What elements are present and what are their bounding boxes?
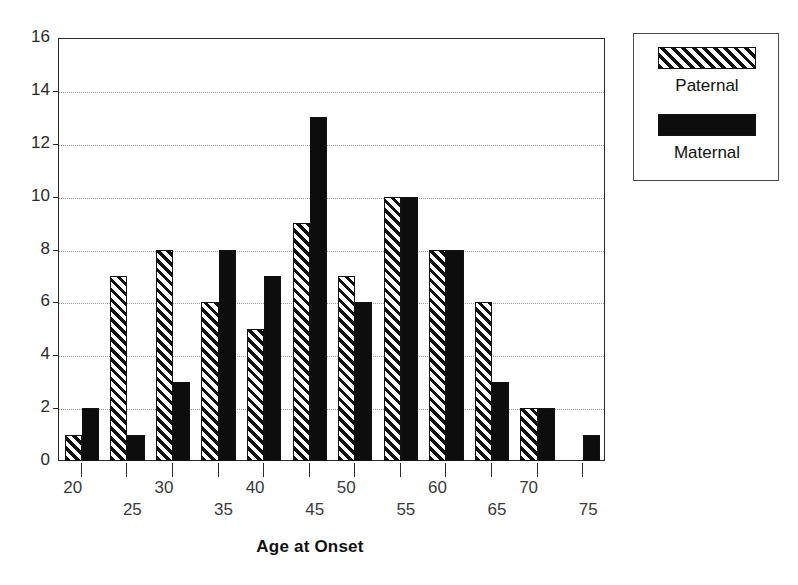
- y-axis-tick-label: 0: [14, 450, 50, 470]
- bar-maternal-65: [492, 382, 509, 461]
- x-axis-tick-label: 35: [204, 500, 244, 520]
- y-axis-tick-label: 10: [14, 186, 50, 206]
- y-axis-tick-label: 2: [14, 397, 50, 417]
- legend-swatch-maternal: [658, 114, 756, 136]
- bar-paternal-35: [201, 302, 218, 461]
- y-axis-tick-label: 8: [14, 239, 50, 259]
- bar-paternal-45: [293, 223, 310, 461]
- bar-maternal-60: [446, 250, 463, 462]
- x-axis-tick-mark: [491, 463, 492, 477]
- y-axis-tick-label: 12: [14, 133, 50, 153]
- x-axis-tick-mark: [126, 463, 127, 477]
- x-axis-tick-label: 20: [53, 478, 93, 498]
- y-axis-tick-label: 6: [14, 291, 50, 311]
- bar-paternal-30: [156, 250, 173, 462]
- x-axis-tick-label: 40: [235, 478, 275, 498]
- bar-paternal-25: [110, 276, 127, 461]
- bar-maternal-35: [219, 250, 236, 462]
- x-axis-tick-mark: [218, 463, 219, 477]
- bar-paternal-70: [520, 408, 537, 461]
- bars-group: [58, 38, 605, 461]
- bar-maternal-50: [355, 302, 372, 461]
- x-axis-tick-mark: [172, 463, 173, 477]
- bar-maternal-30: [173, 382, 190, 461]
- x-axis-tick-label: 50: [326, 478, 366, 498]
- legend-swatch-paternal: [658, 47, 756, 69]
- bar-maternal-55: [401, 197, 418, 461]
- bar-maternal-20: [82, 408, 99, 461]
- bar-paternal-40: [247, 329, 264, 461]
- bar-maternal-70: [538, 408, 555, 461]
- bar-maternal-75: [583, 435, 600, 461]
- x-axis-tick-mark: [81, 463, 82, 477]
- bar-maternal-25: [127, 435, 144, 461]
- y-axis-tick-label: 16: [14, 27, 50, 47]
- x-axis-tick-label: 60: [417, 478, 457, 498]
- x-axis-tick-label: 45: [295, 500, 335, 520]
- x-axis-tick-label: 55: [386, 500, 426, 520]
- bar-maternal-45: [310, 117, 327, 461]
- bar-paternal-60: [429, 250, 446, 462]
- legend-label-maternal: Maternal: [634, 143, 780, 163]
- y-axis-tick-label: 14: [14, 80, 50, 100]
- y-axis-tick-label: 4: [14, 344, 50, 364]
- bar-paternal-55: [384, 197, 401, 461]
- x-axis-tick-label: 75: [568, 500, 608, 520]
- x-axis-tick-label: 65: [477, 500, 517, 520]
- x-axis-tick-label: 25: [112, 500, 152, 520]
- x-axis-tick-mark: [354, 463, 355, 477]
- bar-paternal-20: [65, 435, 82, 461]
- x-axis-tick-label: 30: [144, 478, 184, 498]
- legend-label-paternal: Paternal: [634, 76, 780, 96]
- x-axis-tick-mark: [445, 463, 446, 477]
- x-axis-tick-mark: [400, 463, 401, 477]
- bar-paternal-65: [475, 302, 492, 461]
- x-axis-title: Age at Onset: [0, 537, 620, 557]
- x-axis-tick-mark: [582, 463, 583, 477]
- legend: Paternal Maternal: [633, 33, 779, 181]
- x-axis-tick-mark: [309, 463, 310, 477]
- x-axis-tick-mark: [537, 463, 538, 477]
- x-axis-tick-label: 70: [509, 478, 549, 498]
- bar-paternal-50: [338, 276, 355, 461]
- bar-chart: 0246810121416 202530354045505560657075 A…: [0, 0, 798, 585]
- x-axis-tick-mark: [263, 463, 264, 477]
- bar-maternal-40: [264, 276, 281, 461]
